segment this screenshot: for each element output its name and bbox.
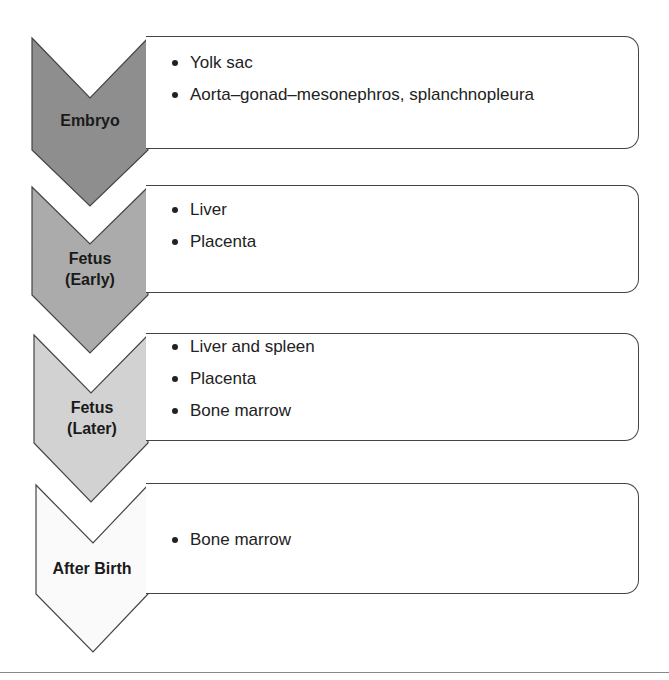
list-item: Placenta	[172, 363, 315, 395]
stage-label-line: After Birth	[36, 558, 148, 579]
stage-box-embryo: Yolk sac Aorta–gonad–mesonephros, splanc…	[146, 36, 639, 149]
stage-label-line: Fetus	[32, 248, 148, 269]
list-item: Yolk sac	[172, 47, 534, 79]
list-item: Liver	[172, 194, 256, 226]
stage-label-fetus-early: Fetus (Early)	[32, 248, 148, 290]
list-item: Liver and spleen	[172, 331, 315, 363]
stage-label-line: (Early)	[32, 269, 148, 290]
stage-box-fetus-later: Liver and spleen Placenta Bone marrow	[146, 333, 639, 441]
stage-box-fetus-early: Liver Placenta	[146, 185, 639, 293]
list-item: Bone marrow	[172, 395, 315, 427]
stage-label-fetus-later: Fetus (Later)	[34, 397, 150, 439]
stage-label-line: Fetus	[34, 397, 150, 418]
stage-label-after-birth: After Birth	[36, 558, 148, 579]
stage-box-after-birth: Bone marrow	[146, 483, 639, 594]
stage-label-embryo: Embryo	[32, 110, 148, 131]
list-item: Aorta–gonad–mesonephros, splanchnopleura	[172, 79, 534, 111]
site-list: Liver and spleen Placenta Bone marrow	[172, 331, 315, 427]
bottom-divider	[0, 672, 669, 673]
site-list: Yolk sac Aorta–gonad–mesonephros, splanc…	[172, 47, 534, 111]
site-list: Bone marrow	[172, 524, 291, 556]
list-item: Bone marrow	[172, 524, 291, 556]
list-item: Placenta	[172, 226, 256, 258]
site-list: Liver Placenta	[172, 194, 256, 258]
stage-label-line: (Later)	[34, 418, 150, 439]
stage-label-line: Embryo	[32, 110, 148, 131]
